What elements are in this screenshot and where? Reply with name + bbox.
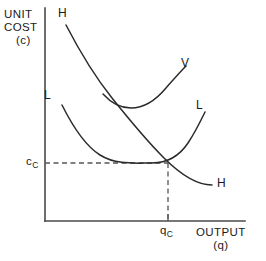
plot-canvas: [0, 0, 266, 261]
y-axis-title-line1: UNIT: [4, 8, 38, 21]
y-axis-title: UNIT COST (c): [4, 8, 38, 47]
x-tick-label-qc: qC: [160, 224, 173, 241]
curve-label-h-right: H: [217, 177, 226, 190]
x-axis-title-line1: OUTPUT: [196, 226, 246, 238]
x-tick-label-qc-subscript: C: [167, 229, 173, 239]
curve-label-l-left: L: [44, 89, 51, 102]
x-axis-title-line2: (q): [196, 239, 246, 252]
x-axis-title: OUTPUT (q): [196, 226, 246, 252]
curve-l: [62, 105, 205, 163]
y-axis-title-line3: (c): [4, 34, 38, 47]
x-tick-label-qc-base: q: [160, 224, 167, 236]
chart-figure: UNIT COST (c) OUTPUT (q) cC qC H H L L V: [0, 0, 266, 261]
y-axis-title-line2: COST: [4, 21, 38, 34]
y-tick-label-cc: cC: [26, 155, 38, 172]
curve-h: [66, 25, 212, 185]
y-tick-label-cc-subscript: C: [32, 160, 38, 170]
curve-label-h-top: H: [58, 7, 67, 20]
curve-label-v: V: [181, 57, 189, 70]
curve-label-l-right: L: [196, 99, 203, 112]
